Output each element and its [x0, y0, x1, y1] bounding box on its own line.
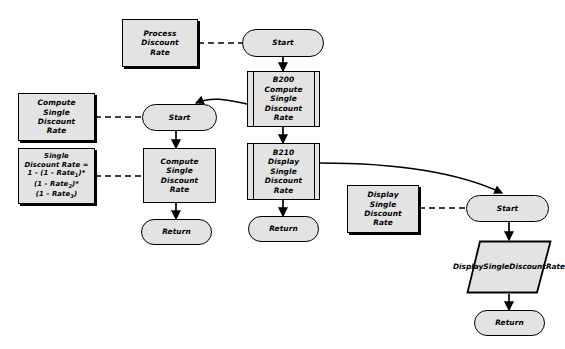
predefined-bar-right-b210: [314, 144, 315, 199]
terminator-start-compute[interactable]: Start: [142, 104, 217, 131]
predefined-bar-left-b210: [253, 144, 254, 199]
annotation-compute-single-discount-rate-label: ComputeSingleDiscountRate: [38, 98, 76, 136]
annotation-process-discount-rate-label: ProcessDiscountRate: [141, 29, 178, 57]
annotation-display-single-discount-rate: DisplaySingleDiscountRate: [347, 185, 419, 233]
annotation-process-discount-rate: ProcessDiscountRate: [122, 19, 198, 67]
terminator-return-process-label: Return: [269, 224, 298, 233]
terminator-start-process[interactable]: Start: [242, 29, 324, 57]
annotation-display-single-discount-rate-label: DisplaySingleDiscountRate: [364, 190, 401, 228]
terminator-return-display-label: Return: [495, 318, 524, 327]
predefined-bar-right-b200: [314, 72, 315, 126]
annotation-formula-single-discount-rate: SingleDiscount Rate =1 - (1 - Rate1)*(1 …: [18, 148, 95, 204]
process-compute-single-discount-rate[interactable]: ComputeSingleDiscountRate: [143, 148, 216, 203]
terminator-start-compute-label: Start: [169, 113, 191, 122]
predefined-process-b200[interactable]: B200ComputeSingleDiscountRate: [247, 71, 320, 127]
annotation-compute-single-discount-rate: ComputeSingleDiscountRate: [18, 93, 95, 141]
terminator-return-process[interactable]: Return: [248, 216, 319, 242]
terminator-return-compute[interactable]: Return: [141, 219, 212, 245]
process-compute-single-discount-rate-label: ComputeSingleDiscountRate: [161, 157, 199, 195]
predefined-bar-left-b200: [253, 72, 254, 126]
predefined-process-b210[interactable]: B210DisplaySingleDiscountRate: [247, 143, 320, 200]
annotation-formula-text: SingleDiscount Rate =1 - (1 - Rate1)*(1 …: [24, 152, 88, 199]
terminator-start-process-label: Start: [272, 38, 294, 47]
terminator-start-display-label: Start: [497, 204, 519, 213]
terminator-start-display[interactable]: Start: [466, 195, 549, 222]
terminator-return-compute-label: Return: [162, 227, 191, 236]
io-display-single-discount-rate-label: DisplaySingleDiscountRate: [466, 240, 552, 294]
io-display-single-discount-rate[interactable]: DisplaySingleDiscountRate: [466, 240, 552, 294]
predefined-process-b210-label: B210DisplaySingleDiscountRate: [256, 148, 311, 195]
terminator-return-display[interactable]: Return: [474, 310, 545, 336]
predefined-process-b200-label: B200ComputeSingleDiscountRate: [256, 75, 312, 122]
